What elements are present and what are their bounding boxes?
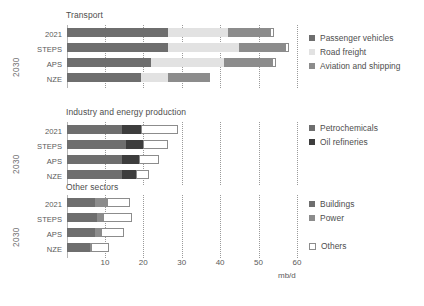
bar-segment xyxy=(67,58,151,67)
bar-row xyxy=(67,28,274,37)
bar-row xyxy=(67,125,178,134)
legend-swatch-icon xyxy=(309,49,315,55)
bar-row xyxy=(67,198,130,207)
bar-segment xyxy=(239,43,285,52)
bar-segment xyxy=(91,243,108,252)
gridline xyxy=(259,122,260,185)
legend-industry: Petrochemicals Oil refineries xyxy=(309,121,378,149)
gridline xyxy=(220,122,221,185)
bar-segment xyxy=(143,140,168,149)
bar-row xyxy=(67,73,211,82)
bar-segment xyxy=(67,170,123,179)
gridline xyxy=(297,25,298,88)
legend-label: Oil refineries xyxy=(320,137,368,147)
legend-item-power: Power xyxy=(309,211,354,225)
bar-segment xyxy=(67,198,96,207)
bar-segment xyxy=(285,43,289,52)
x-tick-label: 50 xyxy=(244,258,274,267)
legend-swatch-icon xyxy=(309,243,316,250)
legend-swatch-icon xyxy=(309,63,315,69)
bar-segment xyxy=(168,43,239,52)
bar-row xyxy=(67,140,169,149)
bar-segment xyxy=(122,170,135,179)
cat-label-transport-nze: NZE xyxy=(16,75,62,84)
bar-segment xyxy=(67,228,96,237)
legend-label: Aviation and shipping xyxy=(320,61,401,71)
gridline xyxy=(182,195,183,258)
bar-segment xyxy=(95,198,107,207)
bar-segment xyxy=(270,28,274,37)
panel-title-industry: Industry and energy production xyxy=(66,107,186,117)
x-tick-label: 10 xyxy=(90,258,120,267)
chart-root: Transport 2021 STEPS APS NZE 2030 Passen… xyxy=(0,0,424,306)
x-tick-label: 30 xyxy=(167,258,197,267)
bar-segment xyxy=(136,170,149,179)
gridline xyxy=(220,195,221,258)
panel-title-other-sectors: Other sectors xyxy=(66,182,118,192)
bar-segment xyxy=(272,58,276,67)
bar-segment xyxy=(67,243,90,252)
bar-row xyxy=(67,170,150,179)
bar-segment xyxy=(168,73,210,82)
legend-swatch-icon xyxy=(309,35,315,41)
legend-swatch-icon xyxy=(309,125,315,131)
bar-row xyxy=(67,228,125,237)
group-label-industry: 2030 xyxy=(12,154,21,174)
cat-label-other-nze: NZE xyxy=(16,245,62,254)
gridline xyxy=(259,195,260,258)
bar-segment xyxy=(67,73,142,82)
bar-segment xyxy=(228,28,270,37)
gridline xyxy=(297,195,298,258)
legend-item-oil-refineries: Oil refineries xyxy=(309,135,378,149)
legend-item-others: Others xyxy=(309,239,354,253)
legend-item-passenger-vehicles: Passenger vehicles xyxy=(309,31,401,45)
bar-segment xyxy=(67,140,127,149)
bar-segment xyxy=(67,125,123,134)
bar-segment xyxy=(67,213,98,222)
bar-segment xyxy=(107,198,130,207)
cat-label-industry-aps: APS xyxy=(16,157,62,166)
bar-segment xyxy=(151,58,224,67)
legend-item-aviation-shipping: Aviation and shipping xyxy=(309,59,401,73)
legend-label: Others xyxy=(321,241,346,251)
gridline xyxy=(297,122,298,185)
cat-label-other-steps: STEPS xyxy=(16,215,62,224)
bar-segment xyxy=(122,155,139,164)
legend-other-sectors: Buildings Power Others xyxy=(309,197,354,253)
bar-segment xyxy=(126,140,143,149)
bar-segment xyxy=(139,155,158,164)
x-tick-label: 20 xyxy=(128,258,158,267)
cat-label-transport-2021: 2021 xyxy=(16,30,62,39)
gridline xyxy=(143,195,144,258)
cat-label-other-2021: 2021 xyxy=(16,200,62,209)
x-tick-label: 60 xyxy=(282,258,312,267)
bar-segment xyxy=(67,28,169,37)
bar-segment xyxy=(101,228,124,237)
legend-item-petrochemicals: Petrochemicals xyxy=(309,121,378,135)
axis-unit-label: mb/d xyxy=(278,271,296,280)
legend-swatch-icon xyxy=(309,201,315,207)
bar-segment xyxy=(168,28,228,37)
cat-label-other-aps: APS xyxy=(16,230,62,239)
bar-segment xyxy=(141,125,177,134)
cat-label-transport-steps: STEPS xyxy=(16,45,62,54)
legend-label: Power xyxy=(320,213,344,223)
legend-label: Passenger vehicles xyxy=(320,33,394,43)
bar-segment xyxy=(141,73,168,82)
bar-segment xyxy=(103,213,132,222)
bar-row xyxy=(67,243,109,252)
bar-row xyxy=(67,155,159,164)
bar-segment xyxy=(67,43,169,52)
bar-segment xyxy=(67,155,123,164)
legend-swatch-icon xyxy=(309,215,315,221)
bar-segment xyxy=(122,125,141,134)
gridline xyxy=(182,122,183,185)
bar-row xyxy=(67,43,290,52)
cat-label-industry-2021: 2021 xyxy=(16,127,62,136)
cat-label-industry-steps: STEPS xyxy=(16,142,62,151)
bar-segment xyxy=(224,58,272,67)
legend-swatch-icon xyxy=(309,139,315,145)
legend-item-road-freight: Road freight xyxy=(309,45,401,59)
group-label-other-sectors: 2030 xyxy=(12,227,21,247)
x-tick-label: 40 xyxy=(205,258,235,267)
